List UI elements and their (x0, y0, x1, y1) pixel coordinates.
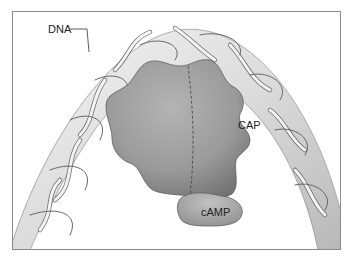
cap-dna-illustration: DNA CAP cAMP (0, 0, 347, 259)
dna-label: DNA (48, 24, 71, 35)
diagram-canvas (0, 0, 347, 259)
camp-label: cAMP (201, 207, 230, 218)
cap-label: CAP (238, 120, 261, 131)
